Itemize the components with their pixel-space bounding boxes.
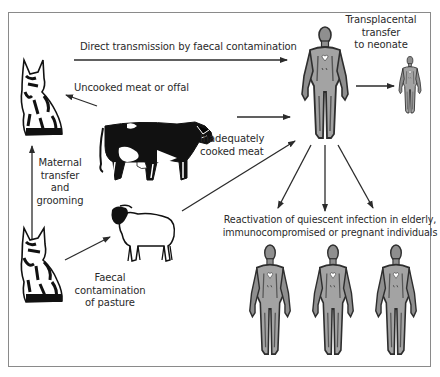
label-transplacental: Transplacental transfer to neonate <box>338 14 424 52</box>
label-line: Inadequately <box>200 133 264 146</box>
arrow-reactivation-3 <box>338 145 373 208</box>
label-line: transfer <box>338 27 424 40</box>
label-line: Maternal <box>36 157 84 170</box>
label-line: cooked meat <box>200 146 264 159</box>
label-line: Reactivation of quiescent infection in e… <box>222 214 438 227</box>
arrow-uncooked-meat <box>66 95 97 106</box>
label-reactivation: Reactivation of quiescent infection in e… <box>222 214 438 239</box>
sheep <box>108 204 180 266</box>
neonate <box>398 56 422 114</box>
arrow-reactivation-1 <box>278 145 311 208</box>
human-bottom-3 <box>374 244 418 356</box>
label-direct-transmission: Direct transmission by faecal contaminat… <box>80 41 290 54</box>
cat-top <box>16 56 70 138</box>
label-line: transfer <box>36 170 84 183</box>
cow-icon <box>97 118 217 184</box>
label-faecal-pasture: Faecal contamination of pasture <box>74 272 146 310</box>
label-maternal-transfer: Maternal transfer and grooming <box>36 157 84 207</box>
sheep-icon <box>108 204 180 266</box>
label-line: of pasture <box>74 297 146 310</box>
human-figure-icon <box>398 56 422 114</box>
label-line: and <box>36 182 84 195</box>
human-figure-icon <box>374 244 418 356</box>
arrow-faecal-pasture <box>65 237 110 260</box>
label-line: Transplacental <box>338 14 424 27</box>
human-bottom-2 <box>311 244 355 356</box>
human-figure-icon <box>248 244 292 356</box>
label-uncooked-meat: Uncooked meat or offal <box>74 82 189 95</box>
cat-bottom <box>16 224 70 304</box>
cat-icon <box>16 224 70 304</box>
label-line: contamination <box>74 285 146 298</box>
human-figure-icon <box>311 244 355 356</box>
cow <box>97 118 217 184</box>
label-line: grooming <box>36 195 84 208</box>
label-line: Faecal <box>74 272 146 285</box>
human-bottom-1 <box>248 244 292 356</box>
label-line: immunocompromised or pregnant individual… <box>222 227 438 240</box>
cat-icon <box>16 56 70 138</box>
label-line: to neonate <box>338 39 424 52</box>
label-inadequately-cooked: Inadequately cooked meat <box>200 133 264 158</box>
